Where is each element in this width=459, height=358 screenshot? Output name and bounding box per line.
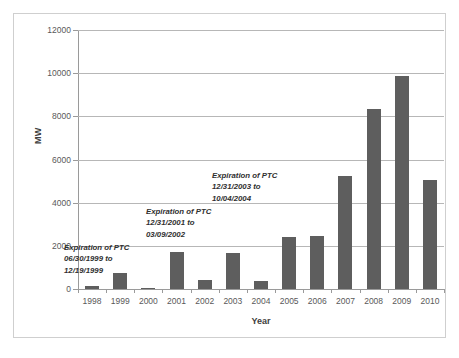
x-tick-label-2004: 2004 (252, 296, 271, 306)
x-tick-mark (247, 289, 248, 293)
bar-slot (247, 30, 275, 289)
x-tick-label-2003: 2003 (223, 296, 242, 306)
bar-slot (360, 30, 388, 289)
bar-slot (331, 30, 359, 289)
x-tick-label-2006: 2006 (308, 296, 327, 306)
y-axis-title: MW (33, 127, 43, 144)
x-tick-mark (303, 289, 304, 293)
annotation-ptc-1999-line3: 12/19/1999 (64, 265, 129, 276)
y-tick-label-0: 0 (31, 284, 71, 294)
annotation-ptc-1999: Expiration of PTC 06/30/1999 to 12/19/19… (64, 242, 129, 276)
bar-slot (134, 30, 162, 289)
x-tick-mark (360, 289, 361, 293)
annotation-ptc-2004-line3: 10/04/2004 (212, 193, 277, 204)
x-tick-mark (134, 289, 135, 293)
bar-2002[interactable] (198, 280, 212, 289)
x-axis-tick-labels: 1998199920002001200220032004200520062007… (78, 296, 444, 310)
x-tick-mark (219, 289, 220, 293)
x-tick-label-2007: 2007 (336, 296, 355, 306)
x-tick-mark (388, 289, 389, 293)
annotation-ptc-2004: Expiration of PTC 12/31/2003 to 10/04/20… (212, 170, 277, 204)
y-tick-label-6000: 6000 (31, 155, 71, 165)
x-tick-label-1999: 1999 (111, 296, 130, 306)
bar-slot (162, 30, 190, 289)
x-tick-mark (106, 289, 107, 293)
bar-slot (416, 30, 444, 289)
x-tick-mark (416, 289, 417, 293)
annotation-ptc-2002-line2: 12/31/2001 to (146, 217, 211, 228)
annotation-ptc-2002-line3: 03/09/2002 (146, 229, 211, 240)
x-tick-mark (191, 289, 192, 293)
bar-2010[interactable] (423, 180, 437, 289)
bar-slot (191, 30, 219, 289)
y-tick-label-10000: 10000 (31, 68, 71, 78)
bar-2008[interactable] (367, 109, 381, 289)
bar-slot (388, 30, 416, 289)
x-tick-mark (331, 289, 332, 293)
x-tick-label-2010: 2010 (420, 296, 439, 306)
chart-frame: 0 2000 4000 6000 8000 10000 12000 MW 199… (13, 13, 446, 338)
annotation-ptc-2002: Expiration of PTC 12/31/2001 to 03/09/20… (146, 206, 211, 240)
y-tick-label-8000: 8000 (31, 111, 71, 121)
x-tick-label-2009: 2009 (392, 296, 411, 306)
bar-2009[interactable] (395, 76, 409, 289)
bar-2004[interactable] (254, 281, 268, 289)
bar-2007[interactable] (338, 176, 352, 289)
annotation-ptc-2004-line2: 12/31/2003 to (212, 181, 277, 192)
x-tick-label-2000: 2000 (139, 296, 158, 306)
x-tick-mark (78, 289, 79, 293)
bar-2001[interactable] (170, 252, 184, 289)
annotation-ptc-2004-line1: Expiration of PTC (212, 170, 277, 181)
annotation-ptc-1999-line1: Expiration of PTC (64, 242, 129, 253)
bar-slot (275, 30, 303, 289)
x-tick-label-2008: 2008 (364, 296, 383, 306)
x-axis-line (78, 289, 444, 290)
y-tick-label-12000: 12000 (31, 25, 71, 35)
x-tick-mark (444, 289, 445, 293)
bar-slot (303, 30, 331, 289)
x-tick-label-1998: 1998 (83, 296, 102, 306)
annotation-ptc-1999-line2: 06/30/1999 to (64, 253, 129, 264)
x-axis-title: Year (78, 316, 444, 326)
y-tick-label-4000: 4000 (31, 198, 71, 208)
x-tick-mark (162, 289, 163, 293)
bar-2005[interactable] (282, 237, 296, 289)
bar-2003[interactable] (226, 253, 240, 289)
x-tick-mark (275, 289, 276, 293)
annotation-ptc-2002-line1: Expiration of PTC (146, 206, 211, 217)
x-tick-label-2005: 2005 (280, 296, 299, 306)
bar-2006[interactable] (310, 236, 324, 289)
x-tick-label-2001: 2001 (167, 296, 186, 306)
x-tick-label-2002: 2002 (195, 296, 214, 306)
plot-area (78, 30, 444, 289)
bar-slot (219, 30, 247, 289)
